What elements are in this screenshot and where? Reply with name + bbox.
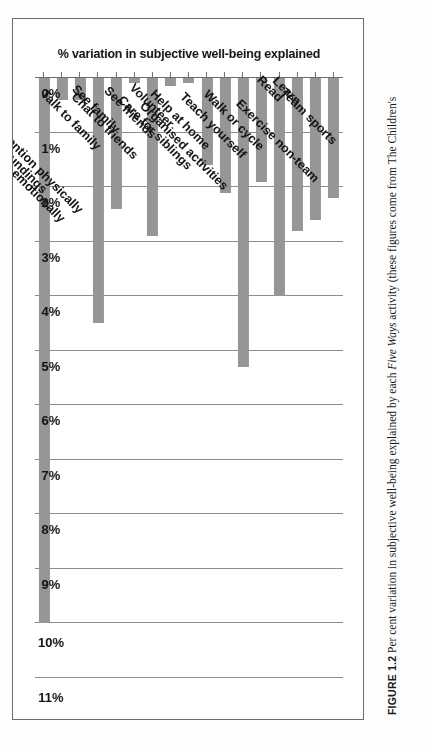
category-tick [43, 72, 44, 77]
category-tick [333, 72, 334, 77]
category-tick [170, 72, 171, 77]
value-tick-label: 8% [42, 523, 61, 538]
gridline-3% [35, 241, 343, 242]
gridline-7% [35, 459, 343, 460]
category-tick [116, 72, 117, 77]
caption-text-a: Per cent variation in subjective well-be… [386, 370, 398, 653]
value-tick-label: 1% [42, 141, 61, 156]
category-tick [315, 72, 316, 77]
value-tick-label: 10% [38, 635, 64, 650]
value-tick-label: 3% [42, 250, 61, 265]
value-tick-label: 9% [42, 577, 61, 592]
value-tick-label: 7% [42, 468, 61, 483]
category-tick [242, 72, 243, 77]
category-tick [61, 72, 62, 77]
gridline-10% [35, 622, 343, 623]
gridline-8% [35, 513, 343, 514]
value-tick-label: 6% [42, 414, 61, 429]
bar [184, 78, 195, 83]
book-page: % variation in subjective well-being exp… [0, 0, 431, 745]
bar [274, 78, 285, 296]
value-axis-title-wrap: % variation in subjective well-being exp… [13, 25, 364, 51]
figure-frame: % variation in subjective well-being exp… [12, 18, 364, 720]
category-tick [224, 72, 225, 77]
caption-text-italic: Five Ways [386, 323, 398, 370]
category-tick [79, 72, 80, 77]
value-tick-label: 4% [42, 305, 61, 320]
figure-number: FIGURE 1.2 [386, 656, 398, 715]
category-tick [206, 72, 207, 77]
gridline-6% [35, 404, 343, 405]
category-tick [134, 72, 135, 77]
gridline-4% [35, 295, 343, 296]
category-tick [97, 72, 98, 77]
figure-caption-wrap: FIGURE 1.2 Per cent variation in subject… [368, 0, 428, 745]
figure-caption: FIGURE 1.2 Per cent variation in subject… [386, 15, 398, 715]
bar [165, 78, 176, 86]
gridline-11% [35, 677, 343, 678]
gridline-9% [35, 568, 343, 569]
category-tick [152, 72, 153, 77]
bar [310, 78, 321, 220]
caption-text-b: activity (these figures come from The Ch… [386, 97, 398, 323]
category-tick [188, 72, 189, 77]
value-tick-label: 11% [38, 690, 63, 705]
bar-chart: % variation in subjective well-being exp… [13, 19, 364, 720]
chart-rotated-container: % variation in subjective well-being exp… [13, 19, 364, 720]
category-tick [297, 72, 298, 77]
value-tick-label: 5% [42, 359, 61, 374]
gridline-5% [35, 350, 343, 351]
value-axis-title: % variation in subjective well-being exp… [13, 47, 364, 61]
